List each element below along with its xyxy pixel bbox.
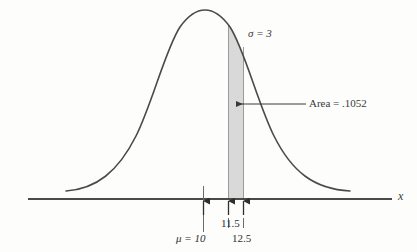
- tick-label-lower-bound: 11.5: [221, 218, 240, 229]
- normal-curve: [66, 10, 350, 191]
- sigma-annotation: σ = 3: [248, 28, 272, 39]
- distribution-plot: [0, 0, 417, 252]
- normal-distribution-figure: σ = 3 Area = .1052 x μ = 10 11.5 12.5: [0, 0, 417, 252]
- tick-label-mu: μ = 10: [176, 233, 205, 244]
- tick-label-upper-bound: 12.5: [232, 233, 251, 244]
- x-axis-label: x: [398, 190, 403, 202]
- shaded-area-fill: [66, 10, 350, 199]
- shaded-area-region: [66, 10, 350, 199]
- area-annotation: Area = .1052: [309, 98, 367, 109]
